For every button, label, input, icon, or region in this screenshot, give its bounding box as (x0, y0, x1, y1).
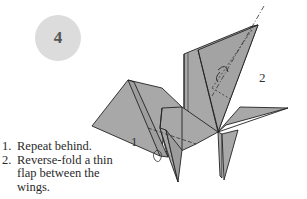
hind-leg-right (222, 130, 238, 180)
callout-2: 2 (259, 70, 266, 86)
callout-1: 1 (131, 134, 138, 150)
instruction-item: 2. Reverse-fold a thin flap between the … (2, 154, 125, 195)
instruction-text: Repeat behind. (17, 139, 92, 153)
hind-leg-left (218, 132, 222, 178)
instruction-marker: 1. (2, 140, 11, 154)
instruction-marker: 2. (2, 154, 11, 168)
instruction-list: 1. Repeat behind. 2. Reverse-fold a thin… (2, 140, 125, 194)
instruction-item: 1. Repeat behind. (2, 140, 125, 154)
instruction-text: Reverse-fold a thin flap between the win… (17, 153, 113, 194)
